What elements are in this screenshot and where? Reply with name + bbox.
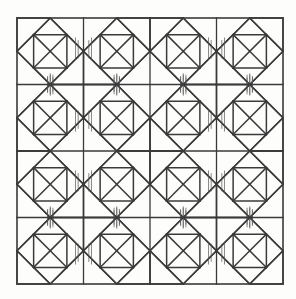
quilt-pattern-svg [0, 0, 296, 299]
quilt-pattern-figure [0, 0, 296, 299]
